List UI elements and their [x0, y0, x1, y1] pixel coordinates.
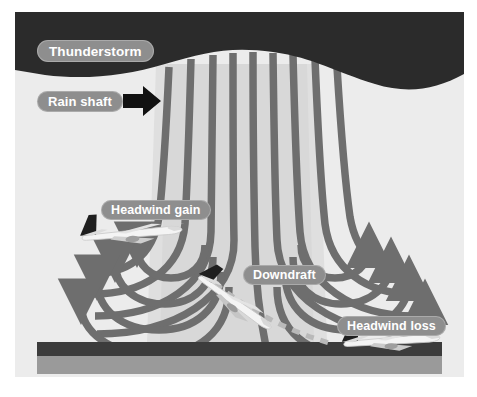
diagram-canvas: Thunderstorm Rain shaft Headwind gain Do… [0, 0, 477, 397]
label-downdraft: Downdraft [243, 265, 326, 285]
label-headwind-gain: Headwind gain [101, 200, 211, 220]
microburst-illustration: Thunderstorm Rain shaft Headwind gain Do… [15, 12, 464, 377]
label-rain-shaft: Rain shaft [37, 91, 123, 112]
label-thunderstorm: Thunderstorm [37, 40, 154, 62]
ground-terrain-band [37, 356, 442, 374]
label-headwind-loss: Headwind loss [337, 316, 446, 336]
